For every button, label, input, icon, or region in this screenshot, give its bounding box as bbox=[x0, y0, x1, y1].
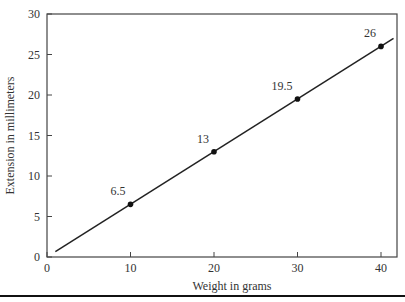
data-point bbox=[378, 44, 384, 50]
data-label: 13 bbox=[197, 132, 209, 146]
x-axis-label: Weight in grams bbox=[192, 279, 271, 293]
y-tick-label: 0 bbox=[34, 250, 40, 264]
data-point bbox=[295, 96, 301, 102]
data-label: 6.5 bbox=[111, 184, 126, 198]
x-tick-label: 40 bbox=[375, 261, 387, 275]
y-tick-label: 20 bbox=[28, 88, 40, 102]
x-tick-label: 0 bbox=[44, 261, 50, 275]
data-label: 26 bbox=[364, 26, 376, 40]
y-tick-label: 25 bbox=[28, 48, 40, 62]
fit-line bbox=[55, 38, 393, 251]
data-label: 19.5 bbox=[272, 79, 293, 93]
y-tick-label: 30 bbox=[28, 7, 40, 21]
line-chart: 051015202530010203040Weight in gramsExte… bbox=[0, 0, 405, 302]
x-tick-label: 30 bbox=[292, 261, 304, 275]
x-tick-label: 20 bbox=[208, 261, 220, 275]
data-point bbox=[211, 149, 217, 155]
plot-frame bbox=[47, 14, 397, 257]
y-tick-label: 5 bbox=[34, 210, 40, 224]
x-tick-label: 10 bbox=[125, 261, 137, 275]
y-axis-label: Extension in millimeters bbox=[3, 76, 17, 194]
y-tick-label: 15 bbox=[28, 129, 40, 143]
data-point bbox=[128, 202, 134, 208]
y-tick-label: 10 bbox=[28, 169, 40, 183]
